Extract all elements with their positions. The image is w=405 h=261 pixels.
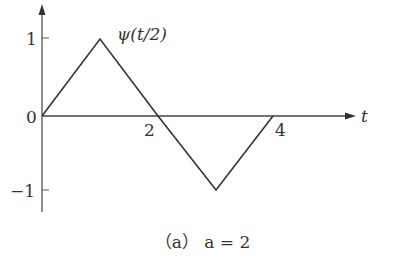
y-axis-arrow-icon [39,4,46,15]
psi-curve [42,39,273,190]
chart-canvas: 1 0 −1 2 4 t ψ(t/2) [0,0,405,261]
x-tick-label-4: 4 [275,120,286,140]
x-tick-label-2: 2 [144,120,155,140]
x-axis-label: t [361,106,368,126]
curve-label: ψ(t/2) [117,24,167,44]
x-axis-arrow-icon [345,113,356,120]
y-tick-label-1: 1 [26,29,37,49]
y-tick-label-0: 0 [26,107,37,127]
y-tick-label-m1: −1 [10,181,35,201]
figure-caption: （a） a = 2 [0,228,405,253]
